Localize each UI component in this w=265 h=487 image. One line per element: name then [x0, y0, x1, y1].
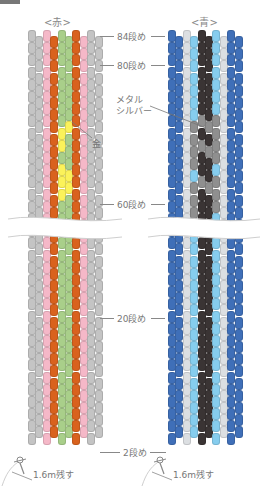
bead	[50, 195, 58, 207]
bead	[50, 109, 58, 121]
pattern-break-wave	[0, 213, 265, 243]
bead	[227, 79, 235, 91]
bead	[95, 280, 103, 292]
bead	[227, 335, 235, 347]
bead	[235, 304, 243, 316]
bead	[50, 317, 58, 329]
bead	[190, 182, 198, 194]
bead	[227, 91, 235, 103]
bead	[50, 402, 58, 414]
bead	[190, 170, 198, 182]
bead	[235, 317, 243, 329]
bead	[190, 426, 198, 438]
bead	[227, 420, 235, 432]
row-label-84: 84段め	[117, 30, 146, 43]
bead	[235, 121, 243, 133]
leader-80-right	[151, 65, 165, 66]
bead	[50, 121, 58, 133]
bead	[50, 158, 58, 170]
bead	[95, 158, 103, 170]
bead	[227, 164, 235, 176]
bead	[95, 36, 103, 48]
bead	[235, 109, 243, 121]
pattern-title-red: <赤>	[44, 14, 71, 29]
bead	[50, 73, 58, 85]
bead	[87, 286, 95, 298]
leader-60	[100, 204, 114, 205]
bead	[50, 426, 58, 438]
bead	[87, 311, 95, 323]
bead	[235, 97, 243, 109]
callout-metal-silver: メタル シルバー	[116, 95, 152, 117]
bead	[95, 182, 103, 194]
bead	[50, 329, 58, 341]
bead	[190, 134, 198, 146]
bead	[50, 60, 58, 72]
bead	[87, 359, 95, 371]
bead	[227, 408, 235, 420]
bead	[87, 67, 95, 79]
bead	[87, 79, 95, 91]
bead	[190, 317, 198, 329]
bead	[50, 280, 58, 292]
bead	[227, 311, 235, 323]
bead	[190, 414, 198, 426]
bead	[227, 128, 235, 140]
bead	[50, 243, 58, 255]
bead	[87, 396, 95, 408]
bead	[190, 256, 198, 268]
callout-metal-silver-line2: シルバー	[116, 106, 152, 117]
bead	[235, 390, 243, 402]
bead	[235, 402, 243, 414]
row-label-60: 60段め	[117, 198, 146, 211]
bead	[87, 42, 95, 54]
bead	[235, 73, 243, 85]
bead	[87, 323, 95, 335]
bead	[95, 414, 103, 426]
bead	[227, 140, 235, 152]
bead	[87, 372, 95, 384]
bead	[95, 73, 103, 85]
bead	[50, 182, 58, 194]
bead	[95, 292, 103, 304]
bead	[235, 146, 243, 158]
bead	[227, 152, 235, 164]
bead	[235, 60, 243, 72]
bead	[87, 298, 95, 310]
bead	[190, 73, 198, 85]
bead	[87, 408, 95, 420]
bead	[87, 250, 95, 262]
bead	[235, 378, 243, 390]
bead	[95, 268, 103, 280]
bead	[235, 243, 243, 255]
bead	[190, 402, 198, 414]
bead	[227, 67, 235, 79]
bead	[227, 176, 235, 188]
bead	[87, 384, 95, 396]
pattern-title-blue: <青>	[191, 14, 218, 29]
bead	[190, 378, 198, 390]
bead	[190, 60, 198, 72]
bead	[87, 30, 95, 42]
bead	[227, 42, 235, 54]
bead	[190, 158, 198, 170]
bead	[95, 304, 103, 316]
bead	[227, 30, 235, 42]
leader-20	[100, 318, 114, 319]
bead	[87, 262, 95, 274]
bead	[50, 170, 58, 182]
callout-gold: 金	[92, 137, 101, 150]
bead	[87, 274, 95, 286]
bead	[95, 256, 103, 268]
bead	[235, 280, 243, 292]
bead	[227, 103, 235, 115]
bead	[87, 91, 95, 103]
bead	[95, 97, 103, 109]
leader-20-right	[151, 318, 165, 319]
bead	[95, 85, 103, 97]
bead	[50, 378, 58, 390]
bead	[227, 359, 235, 371]
leader-84	[100, 36, 114, 37]
bead	[190, 48, 198, 60]
bead	[87, 164, 95, 176]
